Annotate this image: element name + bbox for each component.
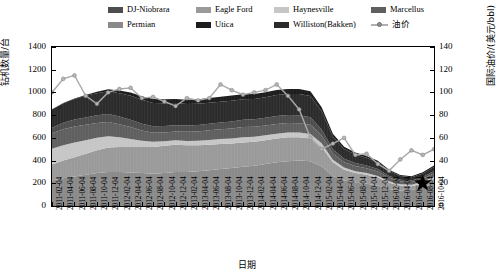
- legend-label-haynesville: Haynesville: [293, 5, 334, 14]
- legend-row-2: Permian Utica Williston(Bakken) 油价: [108, 17, 478, 32]
- y-axis-right-tick-mark: [430, 161, 434, 162]
- x-axis-tick-mark: [243, 202, 244, 206]
- line-marker-oil-price: [320, 147, 324, 151]
- y-axis-left-tick-label: 1200: [12, 64, 46, 74]
- y-axis-left-tick-label: 400: [12, 155, 46, 165]
- x-axis-tick-mark: [299, 202, 300, 206]
- x-axis-tick-mark: [378, 202, 379, 206]
- x-axis-tick-mark: [232, 202, 233, 206]
- line-marker-oil-price: [297, 108, 301, 112]
- line-marker-oil-price: [421, 153, 425, 157]
- line-marker-oil-price: [140, 96, 144, 100]
- legend-item-dj-niobrara[interactable]: DJ-Niobrara: [108, 5, 196, 14]
- legend-row-1: DJ-Niobrara Eagle Ford Haynesville Marce…: [108, 2, 478, 17]
- x-axis-tick-mark: [198, 202, 199, 206]
- line-marker-oil-price: [353, 153, 357, 157]
- y-axis-right-tick-label: 100: [439, 86, 473, 96]
- y-axis-right-tick-mark: [430, 92, 434, 93]
- legend-label-marcellus: Marcellus: [390, 5, 424, 14]
- line-marker-oil-price: [207, 96, 211, 100]
- x-axis-tick-mark: [221, 202, 222, 206]
- line-marker-oil-price: [275, 83, 279, 87]
- x-axis-tick-mark: [254, 202, 255, 206]
- y-axis-left-tick-mark: [52, 92, 56, 93]
- y-axis-left-tick-label: 800: [12, 109, 46, 119]
- legend-item-williston-bakken[interactable]: Williston(Bakken): [274, 20, 371, 29]
- legend-label-oil-price: 油价: [392, 20, 410, 29]
- x-axis-tick-mark: [434, 202, 435, 206]
- y-axis-right-tick-label: 40: [439, 155, 473, 165]
- y-axis-left-tick-mark: [52, 161, 56, 162]
- legend-swatch-marcellus: [371, 7, 386, 13]
- y-axis-right-title: 国际油价/(美元/bbl): [484, 5, 497, 86]
- legend-label-williston-bakken: Williston(Bakken): [293, 20, 356, 29]
- legend-item-eagle-ford[interactable]: Eagle Ford: [196, 5, 274, 14]
- y-axis-right-tick-label: 60: [439, 132, 473, 142]
- line-marker-oil-price: [230, 88, 234, 92]
- line-marker-oil-price: [342, 136, 346, 140]
- legend-item-permian[interactable]: Permian: [108, 20, 196, 29]
- legend-line-marker-icon: [371, 21, 388, 28]
- x-axis-tick-mark: [423, 202, 424, 206]
- line-marker-oil-price: [432, 147, 434, 151]
- x-axis-tick-mark: [400, 202, 401, 206]
- x-axis-tick-mark: [412, 202, 413, 206]
- y-axis-right-tick-label: 80: [439, 109, 473, 119]
- line-marker-oil-price: [162, 100, 166, 104]
- y-axis-right-tick-label: 120: [439, 64, 473, 74]
- legend-label-utica: Utica: [215, 20, 233, 29]
- line-marker-oil-price: [286, 94, 290, 98]
- legend-item-haynesville[interactable]: Haynesville: [274, 5, 371, 14]
- line-marker-oil-price: [84, 94, 88, 98]
- legend-swatch-permian: [108, 22, 123, 28]
- legend-label-permian: Permian: [127, 20, 155, 29]
- line-marker-oil-price: [219, 83, 223, 87]
- line-marker-oil-price: [129, 86, 133, 90]
- x-axis-tick-mark: [288, 202, 289, 206]
- line-marker-oil-price: [118, 87, 122, 91]
- y-axis-left-tick-label: 1400: [12, 41, 46, 51]
- line-marker-oil-price: [264, 88, 268, 92]
- x-axis-tick-mark: [142, 202, 143, 206]
- x-axis-tick-label: 2016-10-04: [437, 177, 446, 211]
- line-marker-oil-price: [376, 162, 380, 166]
- legend-item-oil-price[interactable]: 油价: [371, 20, 410, 29]
- x-axis-tick-mark: [52, 202, 53, 206]
- legend-item-utica[interactable]: Utica: [196, 20, 274, 29]
- line-marker-oil-price: [331, 142, 335, 146]
- x-axis-tick-mark: [333, 202, 334, 206]
- line-marker-oil-price: [398, 158, 402, 162]
- x-axis-tick-mark: [131, 202, 132, 206]
- x-axis-tick-mark: [355, 202, 356, 206]
- line-marker-oil-price: [410, 148, 414, 152]
- legend-item-marcellus[interactable]: Marcellus: [371, 5, 424, 14]
- y-axis-left-tick-label: 0: [12, 200, 46, 210]
- x-axis-tick-mark: [176, 202, 177, 206]
- x-axis-tick-mark: [322, 202, 323, 206]
- line-marker-oil-price: [73, 73, 77, 77]
- line-marker-oil-price: [106, 91, 110, 95]
- y-axis-right-tick-mark: [430, 70, 434, 71]
- legend-swatch-haynesville: [274, 7, 289, 13]
- x-axis-tick-mark: [367, 202, 368, 206]
- x-axis-tick-mark: [86, 202, 87, 206]
- x-axis-tick-mark: [187, 202, 188, 206]
- x-axis-tick-mark: [108, 202, 109, 206]
- y-axis-left-tick-label: 1000: [12, 86, 46, 96]
- x-axis-tick-mark: [164, 202, 165, 206]
- line-marker-oil-price: [309, 136, 313, 140]
- y-axis-right-tick-mark: [430, 115, 434, 116]
- x-axis-tick-mark: [153, 202, 154, 206]
- x-axis-tick-mark: [209, 202, 210, 206]
- legend-swatch-utica: [196, 22, 211, 28]
- line-marker-oil-price: [61, 77, 65, 81]
- line-marker-oil-price: [241, 93, 245, 97]
- line-marker-oil-price: [185, 96, 189, 100]
- y-axis-left-title: 钻机数量/台: [0, 38, 11, 86]
- line-marker-oil-price: [95, 102, 99, 106]
- line-marker-oil-price: [387, 169, 391, 173]
- y-axis-left-tick-mark: [52, 115, 56, 116]
- line-marker-oil-price: [365, 152, 369, 156]
- x-axis-tick-mark: [74, 202, 75, 206]
